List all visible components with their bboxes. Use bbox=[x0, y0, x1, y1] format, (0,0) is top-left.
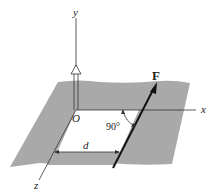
angle-label: 90° bbox=[106, 121, 120, 132]
y-axis-label: y bbox=[72, 6, 78, 18]
x-axis-label: x bbox=[200, 103, 206, 115]
z-axis-label: z bbox=[33, 179, 39, 191]
origin-label: O bbox=[72, 112, 80, 124]
plane-lower-strip bbox=[47, 152, 120, 165]
force-label: F bbox=[152, 68, 160, 83]
force-moment-diagram: y x z O F 90° d bbox=[0, 0, 221, 193]
distance-label: d bbox=[83, 139, 89, 151]
diagram-svg: y x z O F 90° d bbox=[0, 0, 221, 193]
